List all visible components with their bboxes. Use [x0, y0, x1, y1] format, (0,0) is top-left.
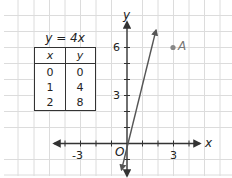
table-cell: 1 [35, 80, 65, 95]
table-cell: 8 [65, 95, 95, 110]
table-header-row: x y [35, 48, 95, 63]
x-axis-label: x [205, 137, 212, 149]
point-a-label: A [178, 40, 186, 52]
table-cell: 4 [65, 80, 95, 95]
y-tick-label-3: 3 [113, 90, 120, 101]
table-row: 0 0 [35, 65, 95, 80]
table-row: 2 8 [35, 95, 95, 110]
table-header-y: y [65, 48, 95, 63]
table-header-x: x [35, 48, 65, 63]
y-tick-label-6: 6 [113, 42, 120, 53]
coordinate-graph: y x O -3 3 3 6 A y = 4x x y 0 0 1 4 2 8 [0, 0, 232, 178]
y-axis-label: y [123, 9, 130, 21]
xy-table: x y 0 0 1 4 2 8 [34, 47, 96, 111]
table-header-divider [35, 63, 95, 64]
table-row: 1 4 [35, 80, 95, 95]
table-cell: 2 [35, 95, 65, 110]
x-tick-label-3: 3 [170, 150, 177, 161]
table-cell: 0 [65, 65, 95, 80]
table-title: y = 4x [34, 31, 96, 45]
point-a [170, 45, 175, 50]
x-tick-label-neg3: -3 [72, 150, 83, 161]
table-cell: 0 [35, 65, 65, 80]
origin-label: O [115, 146, 124, 158]
